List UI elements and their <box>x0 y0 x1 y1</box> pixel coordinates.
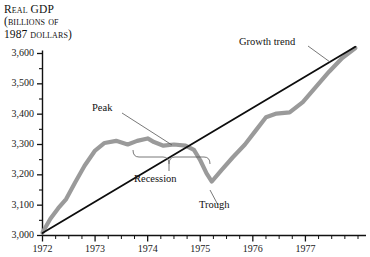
x-tick-label: 1975 <box>180 243 220 254</box>
y-tick-label: 3,600 <box>0 47 34 58</box>
x-tick-label: 1972 <box>23 243 63 254</box>
chart-canvas <box>0 0 370 257</box>
y-ticks <box>37 54 43 236</box>
annotation-trough: Trough <box>199 199 230 210</box>
x-ticks <box>43 236 359 242</box>
y-tick-label: 3,200 <box>0 168 34 179</box>
y-tick-label: 3,400 <box>0 108 34 119</box>
x-tick-label: 1977 <box>285 243 325 254</box>
growth-trend-leader <box>308 46 330 62</box>
x-tick-label: 1973 <box>75 243 115 254</box>
y-tick-label: 3,300 <box>0 138 34 149</box>
annotation-growth-trend: Growth trend <box>239 36 295 47</box>
annotation-peak: Peak <box>92 102 112 113</box>
y-tick-label: 3,500 <box>0 77 34 88</box>
y-tick-label: 3,100 <box>0 199 34 210</box>
gdp-chart: Real GDP (billions of 1987 dollars) 3,00… <box>0 0 370 257</box>
x-tick-label: 1974 <box>128 243 168 254</box>
y-tick-label: 3,000 <box>0 229 34 240</box>
annotation-recession: Recession <box>134 173 177 184</box>
x-tick-label: 1976 <box>233 243 273 254</box>
